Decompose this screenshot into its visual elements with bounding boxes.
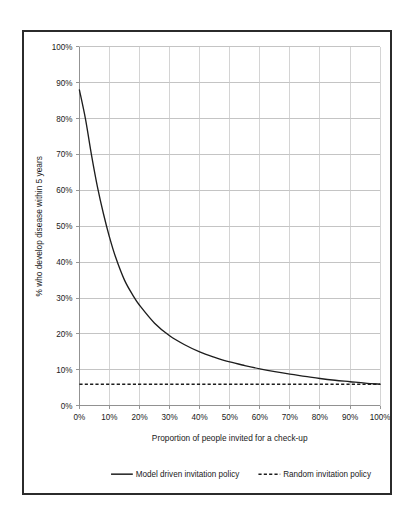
x-tick-label: 20% [131,413,147,422]
y-tick-label: 10% [56,366,72,375]
chart-legend: Model driven invitation policyRandom inv… [111,470,372,479]
x-tick-label: 40% [192,413,208,422]
chart-canvas: 0%10%20%30%40%50%60%70%80%90%100% 0%10%2… [24,32,390,493]
x-tick-label: 10% [101,413,117,422]
y-tick-label: 100% [52,43,73,52]
x-tick-label: 100% [370,413,390,422]
x-tick-label: 30% [162,413,178,422]
y-tick-label: 40% [56,258,72,267]
legend-label-random: Random invitation policy [283,470,372,479]
x-tick-label: 0% [74,413,86,422]
x-tick-label: 80% [312,413,328,422]
y-tick-label: 0% [61,402,73,411]
y-axis-tick-labels: 0%10%20%30%40%50%60%70%80%90%100% [52,43,80,411]
x-tick-label: 90% [342,413,358,422]
y-tick-label: 50% [56,222,72,231]
chart-figure-frame: 0%10%20%30%40%50%60%70%80%90%100% 0%10%2… [22,30,392,495]
y-axis-title: % who develop disease within 5 years [34,156,44,296]
y-tick-label: 70% [56,151,72,160]
y-tick-label: 80% [56,115,72,124]
y-tick-label: 60% [56,186,72,195]
x-tick-label: 60% [252,413,268,422]
x-axis-title: Proportion of people invited for a check… [152,433,308,443]
y-tick-label: 90% [56,79,72,88]
y-tick-label: 20% [56,330,72,339]
x-tick-label: 50% [222,413,238,422]
x-tick-label: 70% [282,413,298,422]
x-axis-tick-labels: 0%10%20%30%40%50%60%70%80%90%100% [74,406,390,422]
legend-label-model-driven: Model driven invitation policy [136,470,241,479]
y-tick-label: 30% [56,294,72,303]
